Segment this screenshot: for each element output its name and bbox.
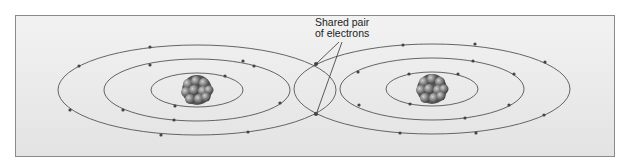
label-line-2: of electrons <box>315 28 369 39</box>
label-pointers <box>317 42 342 112</box>
electrons <box>68 42 546 136</box>
left-nucleus <box>181 75 214 105</box>
shared-pair-label: Shared pair of electrons <box>315 17 369 39</box>
shared-electron-bottom <box>314 112 318 116</box>
right-nucleus <box>416 74 449 104</box>
